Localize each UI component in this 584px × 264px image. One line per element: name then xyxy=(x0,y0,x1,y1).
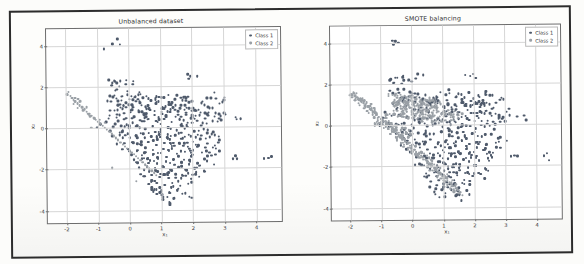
scatter-point xyxy=(109,100,112,103)
scatter-point xyxy=(171,121,174,124)
scatter-point xyxy=(139,132,142,135)
scatter-point xyxy=(404,127,406,129)
scatter-point xyxy=(162,148,165,151)
scatter-point xyxy=(202,128,205,131)
scatter-point xyxy=(448,92,451,95)
scatter-point xyxy=(479,105,482,108)
scatter-point xyxy=(189,151,192,154)
scatter-point xyxy=(488,103,491,106)
scatter-point xyxy=(181,174,184,177)
scatter-point xyxy=(439,167,441,169)
scatter-point xyxy=(465,189,468,192)
x-tick-label: 4 xyxy=(255,224,258,230)
scatter-point xyxy=(424,94,427,97)
scatter-point xyxy=(149,109,152,112)
scatter-point xyxy=(116,88,119,91)
scatter-point xyxy=(187,96,190,99)
scatter-point xyxy=(267,157,270,160)
scatter-point xyxy=(508,114,511,117)
scatter-point xyxy=(131,108,134,111)
scatter-point xyxy=(437,161,440,164)
scatter-point xyxy=(491,156,494,159)
scatter-point xyxy=(168,192,171,195)
scatter-point xyxy=(367,112,369,114)
scatter-point xyxy=(132,141,135,144)
scatter-point xyxy=(453,190,455,192)
y-tick-label: 0 xyxy=(325,123,328,129)
scatter-point xyxy=(79,100,81,102)
scatter-point xyxy=(203,170,206,173)
legend-right[interactable]: Class 1 Class 2 xyxy=(525,26,558,46)
scatter-point xyxy=(174,108,177,111)
scatter-point xyxy=(142,132,145,135)
scatter-point xyxy=(418,115,420,117)
scatter-point xyxy=(155,188,158,191)
legend-item-class1[interactable]: Class 1 xyxy=(250,32,274,38)
scatter-point xyxy=(434,187,437,190)
scatter-point xyxy=(499,146,502,149)
scatter-point xyxy=(210,154,213,157)
scatter-point xyxy=(184,174,187,177)
scatter-point xyxy=(187,73,190,76)
scatter-point xyxy=(156,162,159,165)
scatter-point xyxy=(438,115,440,117)
legend-item-class1[interactable]: Class 1 xyxy=(529,29,553,35)
y-tick-label: 4 xyxy=(40,43,43,49)
scatter-point xyxy=(155,174,157,176)
y-tick-label: -2 xyxy=(323,164,328,170)
scatter-point xyxy=(89,115,91,117)
x-axis-label-left: x₁ xyxy=(162,231,167,237)
legend-item-class2[interactable]: Class 2 xyxy=(530,37,554,43)
scatter-point xyxy=(486,152,489,155)
scatter-point xyxy=(439,91,442,94)
legend-item-class2[interactable]: Class 2 xyxy=(250,40,274,46)
scatter-point xyxy=(483,104,486,107)
scatter-point xyxy=(173,163,176,166)
x-axis-label-right: x₁ xyxy=(444,228,449,234)
scatter-point xyxy=(467,166,470,169)
scatter-point xyxy=(407,79,410,82)
scatter-point xyxy=(177,187,180,190)
scatter-point xyxy=(493,128,496,131)
scatter-point xyxy=(484,147,487,150)
scatter-point xyxy=(152,149,155,152)
scatter-point xyxy=(218,113,221,116)
scatter-point xyxy=(423,175,426,178)
scatter-point xyxy=(490,133,493,136)
scatter-point xyxy=(206,142,209,145)
scatter-point xyxy=(478,96,481,99)
scatter-point xyxy=(198,114,201,117)
legend-left[interactable]: Class 1 Class 2 xyxy=(245,29,278,49)
scatter-point xyxy=(436,184,439,187)
scatter-point xyxy=(155,182,158,185)
scatter-point xyxy=(481,135,484,138)
scatter-point xyxy=(475,155,478,158)
scatter-point xyxy=(138,100,141,103)
scatter-point xyxy=(484,133,487,136)
scatter-point xyxy=(194,114,197,117)
scatter-point xyxy=(490,115,493,118)
scatter-point xyxy=(188,163,191,166)
y-tick-label: -4 xyxy=(40,208,45,214)
scatter-point xyxy=(143,136,146,139)
scatter-point xyxy=(498,98,501,101)
scatter-point xyxy=(392,43,395,46)
scatter-point xyxy=(180,131,183,134)
scatter-point xyxy=(389,133,391,135)
scatter-point xyxy=(119,106,122,109)
scatter-point xyxy=(211,107,214,110)
scatter-point xyxy=(174,134,177,137)
scatter-point xyxy=(181,99,184,102)
scatter-point xyxy=(147,162,150,165)
scatter-point xyxy=(461,98,464,101)
scatter-point xyxy=(156,156,159,159)
scatter-point xyxy=(488,160,491,163)
scatter-point xyxy=(478,159,481,162)
scatter-point xyxy=(447,167,450,170)
scatter-point xyxy=(425,141,428,144)
scatter-point xyxy=(463,183,466,186)
scatter-point xyxy=(197,133,200,136)
scatter-point xyxy=(406,111,408,113)
scatter-point xyxy=(185,113,188,116)
scatter-point xyxy=(147,98,150,101)
